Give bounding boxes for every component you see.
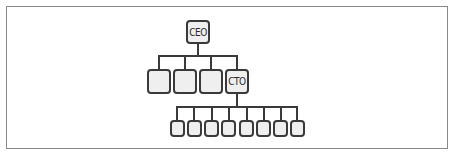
org-node-level2-3 — [204, 120, 219, 137]
org-node-level2-1 — [170, 120, 185, 137]
connector-level2-3 — [211, 106, 213, 121]
org-node-cto: CTO — [225, 69, 249, 94]
org-node-level2-2 — [187, 120, 202, 137]
org-node-level1-3 — [199, 69, 223, 94]
org-node-level1-1 — [147, 69, 171, 94]
org-node-level2-4 — [221, 120, 236, 137]
connector-level1-2 — [184, 55, 186, 70]
org-node-ceo: CEO — [186, 20, 210, 44]
org-node-level2-8 — [290, 120, 305, 137]
org-node-level2-6 — [256, 120, 271, 137]
connector-level2-2 — [193, 106, 195, 121]
org-node-level2-5 — [239, 120, 254, 137]
connector-level2-1 — [176, 106, 178, 121]
connector-level2-8 — [296, 106, 298, 121]
org-node-level2-7 — [273, 120, 288, 137]
connector-level1-4 — [236, 55, 238, 70]
connector-level2-7 — [280, 106, 282, 121]
org-node-level1-2 — [173, 69, 197, 94]
connector-level2-4 — [228, 106, 230, 121]
connector-level1-horizontal — [158, 55, 238, 57]
connector-level1-3 — [210, 55, 212, 70]
connector-level2-5 — [246, 106, 248, 121]
connector-level1-1 — [158, 55, 160, 70]
connector-level2-6 — [263, 106, 265, 121]
